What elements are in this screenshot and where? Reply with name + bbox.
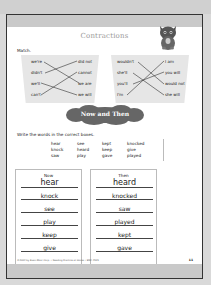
page-number: 11	[189, 258, 193, 262]
contraction-item: you'll	[117, 81, 128, 86]
contraction-item: we'll	[31, 81, 40, 86]
then-entry[interactable]: kept	[96, 232, 153, 239]
then-entry[interactable]: played	[96, 219, 153, 226]
write-instruction: Write the words in the correct boxes.	[17, 132, 94, 137]
contraction-item: she'll	[117, 70, 127, 75]
match-instruction: Match.	[17, 48, 31, 53]
word-bank-item: knocked	[127, 141, 144, 146]
contraction-item: didn't	[31, 70, 42, 75]
word-bank-item: kept	[102, 141, 111, 146]
now-entry[interactable]: see	[21, 206, 78, 213]
word-bank-item: knock	[51, 147, 63, 152]
word-bank-item: saw	[51, 153, 59, 158]
contraction-item: wouldn't	[117, 59, 134, 64]
worksheet-page: Contractions Match. we're didn't we'll c…	[6, 14, 203, 279]
kitten-icon	[157, 24, 179, 50]
then-entry[interactable]: heard	[96, 179, 153, 188]
now-entry[interactable]: knock	[21, 193, 78, 200]
now-entry[interactable]: hear	[21, 179, 78, 188]
word-bank: hear see kept knocked knock heard keep g…	[45, 139, 164, 161]
word-bank-item: heard	[77, 147, 89, 152]
then-box: Then heard knocked saw played kept gave	[90, 169, 157, 265]
expansion-item: cannot	[78, 70, 92, 75]
expansion-item: we are	[78, 81, 91, 86]
page-footer-band	[7, 264, 202, 278]
match-box-right: wouldn't she'll you'll I'm I am you will…	[111, 55, 189, 103]
word-bank-item: keep	[102, 147, 112, 152]
word-bank-item: played	[127, 153, 141, 158]
expansion-item: you will	[165, 70, 180, 75]
now-box: Now hear knock see play keep give	[15, 169, 82, 265]
top-bar	[0, 0, 211, 14]
then-entry[interactable]: gave	[96, 245, 153, 252]
word-bank-item: give	[127, 147, 136, 152]
contraction-item: I'm	[117, 92, 123, 97]
word-bank-item: gave	[102, 153, 112, 158]
contraction-item: can't	[31, 92, 41, 97]
expansion-item: did not	[78, 59, 92, 64]
word-bank-item: play	[77, 153, 86, 158]
copyright-credit: ©2004 by Evan-Moor Corp. • Reading Pract…	[17, 259, 99, 262]
expansion-item: I am	[165, 59, 174, 64]
then-entry[interactable]: saw	[96, 206, 153, 213]
match-box-left: we're didn't we'll can't did not cannot …	[21, 55, 99, 103]
then-entry[interactable]: knocked	[96, 193, 153, 200]
expansion-item: would not	[165, 81, 185, 86]
word-bank-item: hear	[51, 141, 61, 146]
now-entry[interactable]: give	[21, 245, 78, 252]
now-entry[interactable]: keep	[21, 232, 78, 239]
contraction-item: we're	[31, 59, 42, 64]
word-bank-item: see	[77, 141, 84, 146]
expansion-item: we will	[78, 92, 92, 97]
expansion-item: she will	[165, 92, 180, 97]
section-heading: Now and Then	[64, 110, 146, 117]
now-entry[interactable]: play	[21, 219, 78, 226]
